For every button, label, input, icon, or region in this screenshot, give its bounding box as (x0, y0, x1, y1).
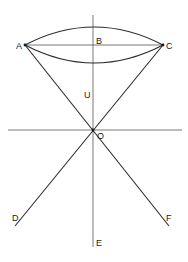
label-b: B (96, 36, 102, 46)
label-e: E (96, 238, 102, 248)
point-o (92, 129, 95, 132)
upper-arc (25, 27, 163, 45)
lower-arc (25, 45, 163, 63)
label-a: A (16, 41, 22, 51)
label-f: F (166, 213, 172, 223)
point-c (162, 44, 165, 47)
label-c: C (166, 41, 173, 51)
line-c-d (15, 45, 163, 226)
cone-diagram: A B C U O D E F (0, 0, 188, 262)
point-a (24, 44, 27, 47)
label-d: D (12, 213, 19, 223)
label-u: U (84, 90, 91, 100)
label-o: O (97, 131, 104, 141)
